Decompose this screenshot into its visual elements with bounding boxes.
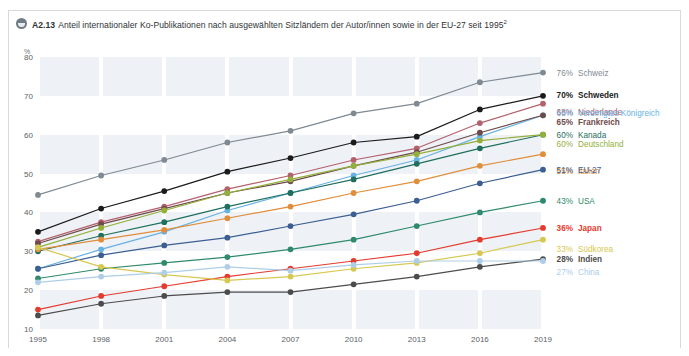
series-point bbox=[161, 243, 167, 249]
y-tick-label: 80 bbox=[11, 53, 33, 62]
legend-value: 65% bbox=[552, 109, 573, 118]
series-point bbox=[224, 278, 230, 284]
series-point bbox=[98, 252, 104, 258]
series-point bbox=[414, 101, 420, 107]
chart-title-row: A2.13Anteil internationaler Ko-Publikati… bbox=[16, 17, 507, 31]
series-point bbox=[477, 258, 483, 264]
x-tick-label: 2016 bbox=[471, 335, 489, 344]
legend-value: 76% bbox=[552, 68, 573, 77]
series-point bbox=[351, 190, 357, 196]
series-point bbox=[224, 169, 230, 175]
series-point bbox=[161, 283, 167, 289]
series-point bbox=[35, 266, 41, 272]
series-point bbox=[540, 70, 546, 76]
legend-label: Kanada bbox=[578, 130, 606, 139]
legend-item-china[interactable]: 27%China bbox=[552, 267, 599, 276]
series-point bbox=[288, 155, 294, 161]
series-point bbox=[540, 151, 546, 157]
legend-label: Schweiz bbox=[578, 68, 609, 77]
legend-value: 28% bbox=[552, 255, 573, 264]
series-point bbox=[540, 112, 546, 118]
series-point bbox=[351, 163, 357, 169]
series-point bbox=[351, 262, 357, 268]
series-point bbox=[35, 229, 41, 235]
chart-title: A2.13Anteil internationaler Ko-Publikati… bbox=[32, 17, 507, 31]
series-point bbox=[288, 289, 294, 295]
chart-title-footnote: 2 bbox=[504, 19, 507, 25]
series-point bbox=[224, 140, 230, 146]
legend-item-japan[interactable]: 36%Japan bbox=[552, 223, 602, 232]
series-point bbox=[35, 192, 41, 198]
series-point bbox=[351, 140, 357, 146]
clock-icon bbox=[16, 18, 27, 29]
series-line bbox=[38, 96, 543, 232]
series-point bbox=[477, 145, 483, 151]
legend-item-schweiz[interactable]: 76%Schweiz bbox=[552, 68, 609, 77]
y-tick-label: 30 bbox=[11, 247, 33, 256]
legend-value: 43% bbox=[552, 196, 573, 205]
series-point bbox=[161, 293, 167, 299]
series-point bbox=[540, 101, 546, 107]
series-point bbox=[414, 274, 420, 280]
series-point bbox=[351, 281, 357, 287]
x-tick-label: 2019 bbox=[534, 335, 552, 344]
chart-legend: 76%Schweiz70%Schweden68%Niederlande65%Ve… bbox=[552, 57, 684, 329]
series-point bbox=[540, 167, 546, 173]
chart-title-text: Anteil internationaler Ko-Publikationen … bbox=[58, 20, 503, 30]
series-point bbox=[540, 93, 546, 99]
legend-value: 70% bbox=[552, 90, 573, 99]
series-point bbox=[288, 177, 294, 183]
legend-item-vereinigtes-k-nigreich[interactable]: 65%Vereinigtes Königreich bbox=[552, 109, 659, 118]
series-point bbox=[288, 128, 294, 134]
legend-item-schweden[interactable]: 70%Schweden bbox=[552, 90, 619, 99]
series-point bbox=[161, 157, 167, 163]
legend-item-kanada[interactable]: 60%Kanada bbox=[552, 130, 606, 139]
series-point bbox=[161, 260, 167, 266]
series-line bbox=[38, 154, 543, 249]
series-point bbox=[477, 79, 483, 85]
series-point bbox=[351, 177, 357, 183]
series-point bbox=[288, 223, 294, 229]
series-point bbox=[477, 120, 483, 126]
series-point bbox=[35, 279, 41, 285]
legend-item-eu-27[interactable]: 51%EU-27 bbox=[552, 165, 601, 174]
series-point bbox=[414, 178, 420, 184]
series-point bbox=[288, 274, 294, 280]
series-point bbox=[161, 208, 167, 214]
series-point bbox=[540, 237, 546, 243]
series-point bbox=[414, 258, 420, 264]
series-point bbox=[161, 188, 167, 194]
legend-value: 27% bbox=[552, 267, 573, 276]
legend-label: Schweden bbox=[578, 90, 619, 99]
legend-label: Südkorea bbox=[578, 244, 613, 253]
series-point bbox=[288, 204, 294, 210]
legend-label: EU-27 bbox=[578, 165, 601, 174]
legend-item-deutschland[interactable]: 60%Deutschland bbox=[552, 139, 624, 148]
series-point bbox=[477, 210, 483, 216]
series-point bbox=[351, 237, 357, 243]
legend-item-s-dkorea[interactable]: 33%Südkorea bbox=[552, 244, 613, 253]
y-tick-label: 50 bbox=[11, 169, 33, 178]
legend-item-frankreich[interactable]: 65%Frankreich bbox=[552, 118, 620, 127]
y-tick-label: 10 bbox=[11, 325, 33, 334]
x-tick-label: 1995 bbox=[29, 335, 47, 344]
series-point bbox=[224, 289, 230, 295]
series-point bbox=[224, 204, 230, 210]
series-point bbox=[477, 264, 483, 270]
x-tick-label: 2004 bbox=[218, 335, 236, 344]
legend-label: Japan bbox=[578, 223, 602, 232]
series-point bbox=[98, 206, 104, 212]
series-point bbox=[98, 264, 104, 270]
legend-item-indien[interactable]: 28%Indien bbox=[552, 255, 602, 264]
series-point bbox=[161, 219, 167, 225]
legend-label: USA bbox=[578, 196, 595, 205]
x-tick-label: 2007 bbox=[282, 335, 300, 344]
legend-label: Frankreich bbox=[578, 118, 620, 127]
legend-item-usa[interactable]: 43%USA bbox=[552, 196, 595, 205]
series-point bbox=[477, 180, 483, 186]
series-point bbox=[98, 274, 104, 280]
legend-value: 65% bbox=[552, 118, 573, 127]
series-point bbox=[351, 211, 357, 217]
series-point bbox=[414, 223, 420, 229]
series-point bbox=[540, 258, 546, 264]
